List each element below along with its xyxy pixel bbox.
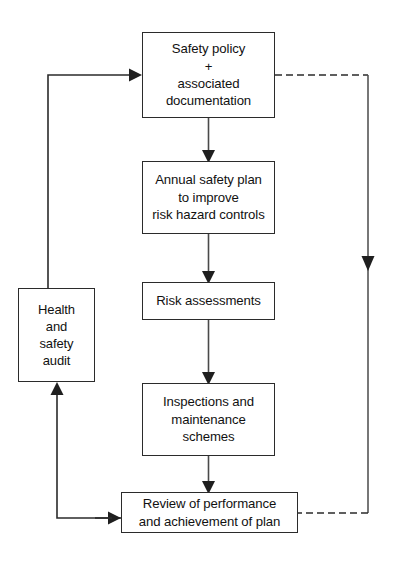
- connector-policy-to-review: [275, 75, 375, 513]
- node-health-and-safety-audit: Health and safety audit: [18, 288, 95, 382]
- node-annual-safety-plan: Annual safety plan to improve risk hazar…: [142, 161, 275, 234]
- connector-plan-to-risk: [202, 234, 215, 284]
- connector-policy-to-plan: [202, 118, 215, 163]
- node-inspections-and-maintenance-label: Inspections and maintenance schemes: [159, 393, 258, 445]
- connector-risk-to-inspections: [202, 320, 215, 385]
- node-safety-policy-label: Safety policy + associated documentation: [162, 40, 255, 110]
- connector-review-to-audit: [51, 382, 122, 525]
- connector-audit-to-policy: [48, 69, 142, 289]
- node-review-of-performance-label: Review of performance and achievement of…: [135, 495, 284, 530]
- node-annual-safety-plan-label: Annual safety plan to improve risk hazar…: [148, 171, 268, 223]
- node-risk-assessments-label: Risk assessments: [152, 292, 265, 309]
- node-safety-policy: Safety policy + associated documentation: [142, 32, 275, 118]
- node-inspections-and-maintenance: Inspections and maintenance schemes: [142, 383, 275, 456]
- connector-inspections-to-review: [202, 456, 215, 494]
- node-risk-assessments: Risk assessments: [142, 282, 275, 320]
- node-health-and-safety-audit-label: Health and safety audit: [34, 301, 79, 370]
- flowchart-diagram: Safety policy + associated documentation…: [0, 0, 394, 568]
- node-review-of-performance: Review of performance and achievement of…: [121, 492, 298, 533]
